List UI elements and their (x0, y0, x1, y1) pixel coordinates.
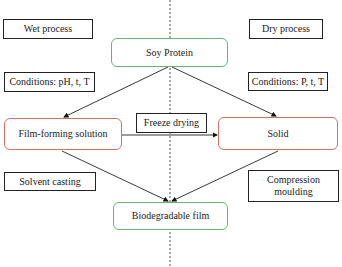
node-solid: Solid (218, 117, 338, 150)
solvent-casting-label: Solvent casting (4, 172, 96, 191)
compression-moulding-label: Compression moulding (248, 170, 339, 202)
dry-process-label: Dry process (249, 19, 323, 39)
freeze-drying-label: Freeze drying (136, 113, 207, 133)
dry-conditions-label: Conditions: P, t, T (248, 72, 328, 91)
node-soy-protein: Soy Protein (111, 38, 228, 67)
node-biodegradable-film: Biodegradable film (113, 202, 228, 230)
wet-conditions-label: Conditions: pH, t, T (4, 72, 95, 92)
wet-process-label: Wet process (3, 19, 93, 39)
node-film-forming-solution: Film-forming solution (4, 118, 122, 150)
